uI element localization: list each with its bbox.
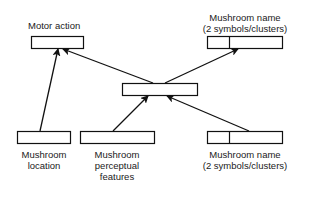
arrow-location-to-motor-action	[40, 49, 58, 131]
network-diagram: Motor action Mushroom name (2 symbols/cl…	[0, 0, 312, 197]
location-label: Mushroom location	[14, 149, 74, 171]
name-output-label: Mushroom name (2 symbols/clusters)	[192, 12, 298, 34]
node-hidden	[123, 84, 198, 96]
node-motor-action	[32, 37, 84, 49]
arrow-hidden-to-motor-action	[63, 49, 153, 83]
arrow-hidden-to-name-output	[165, 49, 238, 83]
perceptual-features-label: Mushroom perceptual features	[80, 149, 154, 182]
node-location	[18, 132, 71, 144]
name-input-label: Mushroom name (2 symbols/clusters)	[192, 149, 298, 171]
node-name-output	[208, 37, 283, 49]
motor-action-label: Motor action	[28, 20, 90, 31]
arrow-perceptual-to-hidden	[113, 96, 148, 131]
node-name-input	[208, 132, 283, 144]
arrow-name-input-to-hidden	[167, 96, 249, 131]
node-perceptual	[81, 132, 155, 144]
